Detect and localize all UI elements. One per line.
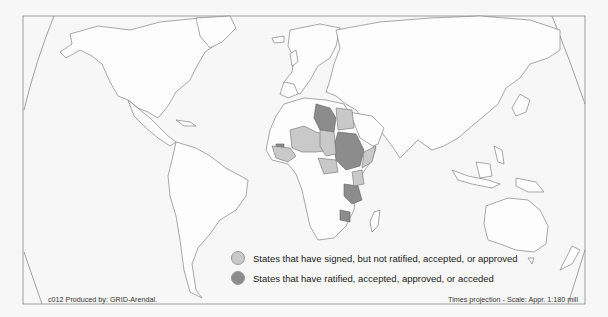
region-egypt <box>336 108 354 130</box>
indonesia <box>452 170 500 188</box>
tasmania <box>528 258 534 264</box>
new-zealand <box>560 246 580 270</box>
new-guinea <box>516 178 544 192</box>
region-zimbabwe <box>340 210 350 222</box>
signed-swatch-icon <box>231 251 245 265</box>
projection-label: Times projection - Scale: Appr. 1:180 mi… <box>448 295 578 304</box>
borneo <box>476 162 492 178</box>
legend-label-signed: States that have signed, but not ratifie… <box>253 253 518 264</box>
madagascar <box>370 210 380 232</box>
legend-item-signed: States that have signed, but not ratifie… <box>231 248 518 268</box>
credit-text: c012 Produced by: GRID-Arendal. <box>48 295 157 304</box>
legend-item-ratified: States that have ratified, accepted, app… <box>231 268 518 288</box>
caribbean <box>176 120 196 126</box>
iceland <box>272 36 284 43</box>
left-meridian-bottom <box>24 252 42 304</box>
japan <box>512 94 530 116</box>
left-meridian <box>24 16 54 110</box>
region-kenya <box>352 170 364 186</box>
legend-label-ratified: States that have ratified, accepted, app… <box>253 273 494 284</box>
australia <box>484 198 548 252</box>
ratified-swatch-icon <box>231 271 245 285</box>
legend: States that have signed, but not ratifie… <box>231 248 518 288</box>
philippines <box>494 146 504 164</box>
